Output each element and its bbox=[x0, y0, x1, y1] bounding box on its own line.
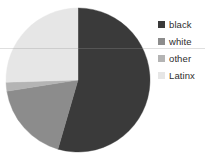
pie-slice-latinx[interactable] bbox=[6, 8, 78, 82]
legend-label-white: white bbox=[169, 36, 192, 47]
chart-legend: black white other Latinx bbox=[158, 19, 205, 81]
legend-swatch-white bbox=[158, 38, 165, 45]
pie-plot-area bbox=[0, 0, 152, 160]
pie-slice-group bbox=[6, 8, 150, 152]
legend-label-other: other bbox=[169, 53, 191, 64]
pie-chart-figure: black white other Latinx bbox=[0, 0, 205, 160]
legend-label-black: black bbox=[169, 19, 192, 30]
legend-label-latinx: Latinx bbox=[169, 70, 195, 81]
legend-entry-white[interactable]: white bbox=[158, 36, 205, 47]
legend-entry-black[interactable]: black bbox=[158, 19, 205, 30]
legend-entry-other[interactable]: other bbox=[158, 53, 205, 64]
legend-entry-latinx[interactable]: Latinx bbox=[158, 70, 205, 81]
legend-swatch-latinx bbox=[158, 72, 165, 79]
pie-svg bbox=[0, 0, 152, 160]
legend-swatch-black bbox=[158, 21, 165, 28]
legend-swatch-other bbox=[158, 55, 165, 62]
